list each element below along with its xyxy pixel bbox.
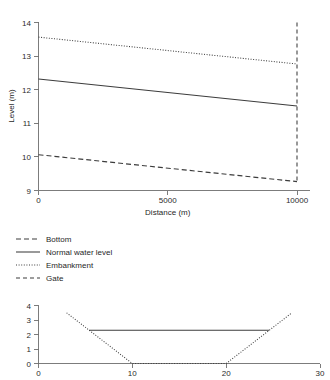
y-axis-tick-labels: 9 10 11 12 13 14 (22, 19, 31, 196)
x-axis-title: Distance (m) (145, 208, 191, 217)
cross-y-tick-label: 3 (27, 316, 32, 325)
cross-x-tick-label: 20 (222, 369, 231, 378)
y-tick-label: 14 (22, 19, 31, 28)
y-axis-ticks (34, 23, 39, 191)
series-bottom (39, 155, 298, 182)
x-axis-tick-labels: 0 5000 10000 (36, 196, 308, 205)
legend: Bottom Normal water level Embankment Gat… (16, 235, 112, 283)
x-tick-label: 10000 (286, 196, 309, 205)
cross-x-tick-label: 10 (128, 369, 137, 378)
cross-y-tick-label: 0 (27, 360, 32, 369)
series-normal-water-level (39, 79, 298, 106)
x-axis-ticks (39, 191, 298, 195)
x-tick-label: 0 (36, 196, 41, 205)
cross-x-tick-label: 30 (316, 369, 325, 378)
y-tick-label: 9 (27, 187, 32, 196)
y-axis-title: Level (m) (7, 89, 16, 123)
y-tick-label: 11 (23, 119, 32, 128)
cross-section-x-axis-ticks (39, 364, 321, 368)
cross-section-chart: 0 1 2 3 4 0 10 20 30 (27, 302, 325, 379)
y-tick-label: 13 (22, 52, 31, 61)
cross-section-x-axis-tick-labels: 0 10 20 30 (36, 369, 325, 378)
legend-label-embankment: Embankment (46, 261, 94, 270)
cross-section-series-embankment (67, 313, 292, 364)
longitudinal-profile-chart: 9 10 11 12 13 14 0 5000 10000 Distance (… (7, 19, 310, 218)
cross-section-y-axis-tick-labels: 0 1 2 3 4 (27, 302, 32, 369)
cross-x-tick-label: 0 (36, 369, 41, 378)
cross-section-y-axis-ticks (34, 306, 39, 364)
y-tick-label: 10 (22, 153, 31, 162)
legend-label-gate: Gate (46, 274, 64, 283)
y-tick-label: 12 (22, 86, 31, 95)
figure-page: 9 10 11 12 13 14 0 5000 10000 Distance (… (0, 0, 330, 380)
combined-figure: 9 10 11 12 13 14 0 5000 10000 Distance (… (0, 0, 330, 380)
legend-label-normal-water-level: Normal water level (46, 248, 112, 257)
x-tick-label: 5000 (159, 196, 177, 205)
cross-y-tick-label: 4 (27, 302, 32, 311)
cross-y-tick-label: 1 (27, 345, 32, 354)
series-embankment (39, 37, 298, 64)
legend-label-bottom: Bottom (46, 235, 72, 244)
cross-y-tick-label: 2 (27, 331, 32, 340)
